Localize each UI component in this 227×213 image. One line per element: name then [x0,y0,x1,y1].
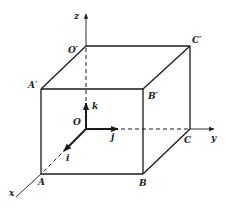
vertex-label-c-prime: C′ [192,35,202,45]
axis-label-x: x [8,188,15,198]
vertex-label-c: C [184,135,192,145]
cuboid-diagram: z y x O′ C′ A′ B′ O C A B k j i [0,0,227,213]
vertex-label-a-prime: A′ [27,80,38,90]
axis-label-z: z [73,11,80,21]
edge-c-prime-b-prime [143,46,190,89]
vertex-label-b-prime: B′ [147,91,159,101]
vector-label-k: k [92,101,98,111]
edge-o-prime-a-prime [41,46,86,89]
vertex-label-o: O [73,117,81,127]
axis-label-y: y [210,133,217,143]
edge-b-c [143,129,190,174]
vector-label-i: i [66,153,70,163]
vertex-label-o-prime: O′ [68,45,79,55]
unit-vector-i [64,129,86,151]
vertex-label-b: B [138,178,147,188]
vector-label-j: j [109,132,115,142]
vertex-label-a: A [37,177,45,187]
